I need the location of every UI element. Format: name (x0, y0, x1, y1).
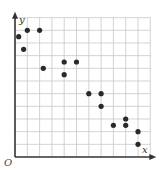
x-axis-label: x (142, 144, 148, 155)
data-points (16, 28, 141, 147)
axes (12, 12, 156, 160)
data-point (99, 104, 104, 109)
data-point (37, 28, 42, 33)
data-point (135, 142, 140, 147)
data-point (41, 66, 46, 71)
data-point (16, 34, 21, 39)
data-point (62, 59, 67, 64)
data-point (21, 47, 26, 52)
y-axis-label: y (18, 14, 25, 25)
data-point (99, 91, 104, 96)
grid-lines (15, 18, 150, 157)
data-point (111, 123, 116, 128)
data-point (74, 59, 79, 64)
scatter-plot: x y O (0, 0, 159, 171)
data-point (86, 91, 91, 96)
data-point (135, 129, 140, 134)
origin-label: O (4, 157, 12, 168)
data-point (123, 123, 128, 128)
data-point (123, 116, 128, 121)
y-axis-arrow-icon (12, 12, 18, 19)
x-axis-arrow-icon (149, 154, 156, 160)
data-point (25, 28, 30, 33)
data-point (62, 72, 67, 77)
